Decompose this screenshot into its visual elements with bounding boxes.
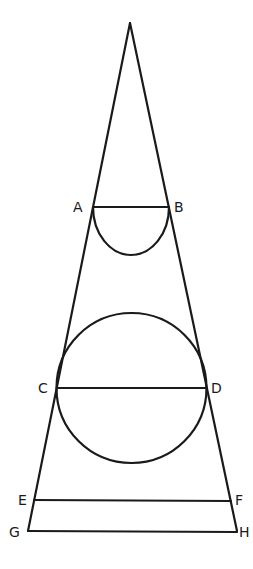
- segment-gh: [28, 531, 237, 532]
- label-d: D: [211, 380, 222, 396]
- label-h: H: [239, 524, 250, 540]
- right-side: [130, 23, 237, 531]
- semicircle-ab: [93, 207, 169, 255]
- label-f: F: [235, 492, 243, 508]
- label-a: A: [73, 199, 83, 215]
- geometry-diagram: A B C D E F G H: [0, 0, 253, 569]
- label-c: C: [38, 380, 48, 396]
- left-side: [28, 23, 130, 531]
- segment-ef: [34, 500, 231, 501]
- label-g: G: [9, 524, 20, 540]
- label-b: B: [174, 199, 184, 215]
- label-e: E: [18, 492, 27, 508]
